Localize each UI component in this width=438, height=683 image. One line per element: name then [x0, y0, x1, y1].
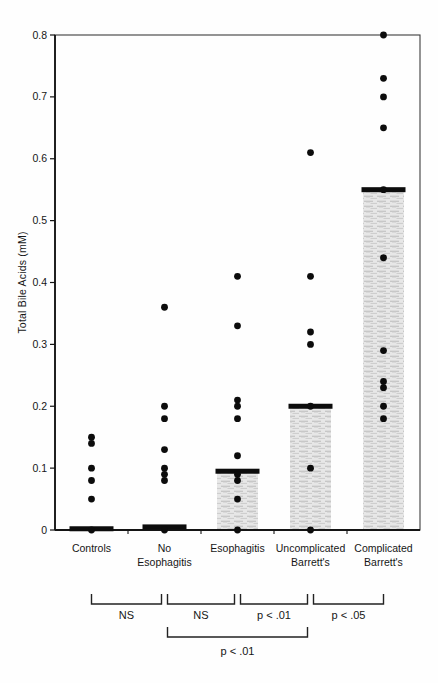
data-point: [307, 273, 314, 280]
data-point: [88, 434, 95, 441]
data-point: [161, 471, 168, 478]
y-tick-label: 0.7: [32, 90, 47, 102]
data-point: [234, 397, 241, 404]
data-point: [161, 304, 168, 311]
y-tick-label: 0.8: [32, 29, 47, 41]
y-tick-label: 0.5: [32, 214, 47, 226]
comparison-bracket: [314, 594, 384, 604]
y-tick-label: 0.4: [32, 276, 47, 288]
data-point: [161, 403, 168, 410]
data-point: [161, 446, 168, 453]
range-bar: [363, 190, 404, 530]
y-tick-label: 0.2: [32, 400, 47, 412]
y-tick-label: 0.6: [32, 152, 47, 164]
data-point: [307, 403, 314, 410]
data-point: [380, 415, 387, 422]
data-point: [380, 186, 387, 193]
data-point: [234, 273, 241, 280]
figure: 00.10.20.30.40.50.60.70.8Total Bile Acid…: [0, 0, 438, 683]
data-point: [380, 384, 387, 391]
data-point: [161, 465, 168, 472]
data-point: [380, 75, 387, 82]
data-point: [234, 477, 241, 484]
y-tick-label: 0: [41, 524, 47, 536]
comparison-bracket: [241, 594, 308, 604]
data-point: [234, 322, 241, 329]
comparison-bracket: [92, 594, 162, 604]
y-tick-label: 0.3: [32, 338, 47, 350]
data-point: [88, 477, 95, 484]
data-point: [380, 347, 387, 354]
comparison-label: p < .05: [332, 609, 366, 621]
x-category-label: UncomplicatedBarrett's: [276, 542, 346, 568]
x-category-label: Esophagitis: [210, 542, 264, 554]
data-point: [234, 471, 241, 478]
data-point: [88, 496, 95, 503]
comparison-label: p < .01: [257, 609, 291, 621]
data-point: [88, 440, 95, 447]
x-category-label: NoEsophagitis: [137, 542, 191, 568]
y-axis-title: Total Bile Acids (mM): [16, 231, 28, 333]
data-point: [234, 452, 241, 459]
data-point: [380, 254, 387, 261]
data-point: [307, 341, 314, 348]
data-point: [88, 527, 95, 534]
data-point: [307, 329, 314, 336]
data-point: [307, 149, 314, 156]
comparison-label: NS: [193, 609, 208, 621]
data-point: [380, 378, 387, 385]
data-point: [161, 477, 168, 484]
data-point: [88, 465, 95, 472]
data-point: [380, 403, 387, 410]
comparison-label: NS: [119, 609, 134, 621]
x-category-label: ComplicatedBarrett's: [354, 542, 413, 568]
bile-acids-dot-plot: 00.10.20.30.40.50.60.70.8Total Bile Acid…: [0, 0, 438, 683]
y-tick-label: 0.1: [32, 462, 47, 474]
comparison-bracket: [168, 594, 235, 604]
comparison-bracket: [168, 627, 308, 637]
data-point: [234, 415, 241, 422]
data-point: [234, 527, 241, 534]
data-point: [380, 93, 387, 100]
x-category-label: Controls: [72, 542, 111, 554]
comparison-label: p < .01: [221, 645, 255, 657]
data-point: [380, 124, 387, 131]
data-point: [380, 32, 387, 39]
data-point: [307, 527, 314, 534]
data-point: [234, 496, 241, 503]
data-point: [161, 415, 168, 422]
data-point: [307, 465, 314, 472]
data-point: [234, 403, 241, 410]
data-point: [161, 527, 168, 534]
